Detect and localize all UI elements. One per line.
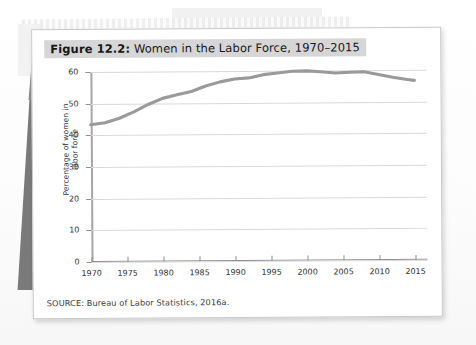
x-axis-tick-label: 2005 xyxy=(333,267,353,276)
figure-source: SOURCE: Bureau of Labor Statistics, 2016… xyxy=(47,297,230,308)
x-axis-labels: 1970197519801985199019952000200520102015 xyxy=(92,260,428,278)
figure-title: Figure 12.2: Women in the Labor Force, 1… xyxy=(50,40,360,56)
figure-label: Figure 12.2: xyxy=(50,42,130,56)
y-axis-tick-label: 60 xyxy=(68,67,78,76)
x-axis-tick-label: 2000 xyxy=(297,268,317,277)
x-axis-tick-label: 1975 xyxy=(117,269,137,278)
figure-title-text: Women in the Labor Force, 1970–2015 xyxy=(134,40,360,55)
series-line-women-labor-force xyxy=(90,70,414,125)
x-axis-tick-label: 1970 xyxy=(81,269,101,278)
axes: 0102030405060 xyxy=(90,70,421,262)
y-axis-tick-label: 10 xyxy=(69,226,79,235)
x-axis-tick-label: 1980 xyxy=(153,268,173,277)
figure-title-band: Figure 12.2: Women in the Labor Force, 1… xyxy=(44,38,366,58)
x-axis-tick-label: 2015 xyxy=(405,267,425,276)
line-chart-svg xyxy=(90,70,427,262)
y-axis-tick-label: 20 xyxy=(69,194,79,203)
y-axis-tick-label: 30 xyxy=(69,162,79,171)
y-axis-label: Percentage of women in labor force xyxy=(61,101,81,197)
x-axis-tick-label: 1995 xyxy=(261,268,281,277)
figure-card: Figure 12.2: Women in the Labor Force, 1… xyxy=(31,27,443,319)
x-axis-tick-label: 1985 xyxy=(189,268,209,277)
plot-area: Percentage of women in labor force 01020… xyxy=(44,64,429,278)
x-axis-tick-label: 2010 xyxy=(369,267,389,276)
scanned-page-canvas: Figure 12.2: Women in the Labor Force, 1… xyxy=(0,0,476,345)
y-axis-tick-label: 50 xyxy=(68,99,78,108)
y-axis-tick-label: 0 xyxy=(74,257,79,266)
x-axis-tick-label: 1990 xyxy=(225,268,245,277)
y-axis-tick-label: 40 xyxy=(69,131,79,140)
